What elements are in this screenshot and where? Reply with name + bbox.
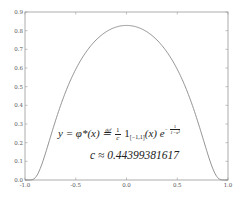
indicator-symbol: 1: [122, 127, 130, 139]
y-tick-label: 0.6: [14, 65, 23, 71]
x-tick-label: -1.0: [20, 182, 31, 188]
formula-lhs: y = φ*(x) ≝: [58, 127, 114, 139]
y-tick-label: 0.9: [14, 9, 23, 15]
x-axis-ticks: -1.0-0.50.00.51.0: [20, 12, 233, 188]
y-tick-label: 0.4: [14, 102, 23, 108]
formula-fraction: 1c: [115, 127, 121, 142]
indicator-subscript: [−1,1]: [130, 134, 145, 140]
y-tick-label: 0.5: [14, 84, 23, 90]
y-tick-label: 0.1: [14, 158, 23, 164]
y-tick-label: 0.2: [14, 140, 23, 146]
y-tick-label: 0.3: [14, 121, 23, 127]
constant-annotation: c ≈ 0.44399381617: [90, 149, 179, 161]
formula-arg: (x) e: [145, 127, 165, 139]
x-tick-label: 1.0: [224, 182, 233, 188]
x-tick-label: 0.5: [173, 182, 182, 188]
y-tick-label: 0.8: [14, 28, 23, 34]
chart-canvas: 0.00.10.20.30.40.50.60.70.80.9 -1.0-0.50…: [0, 0, 242, 197]
y-tick-label: 0.7: [14, 46, 23, 52]
formula-definition: y = φ*(x) ≝ 1c 1[−1,1](x) e− 11−x²: [58, 124, 181, 142]
x-tick-label: 0.0: [122, 182, 131, 188]
formula-exponent: − 11−x²: [165, 124, 181, 135]
x-tick-label: -0.5: [70, 182, 81, 188]
